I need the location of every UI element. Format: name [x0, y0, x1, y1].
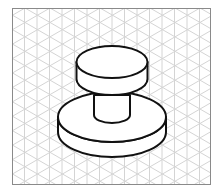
diagram-canvas	[0, 0, 223, 191]
top-cap-top	[77, 46, 148, 78]
isometric-diagram	[0, 0, 223, 191]
stem-side	[94, 95, 130, 123]
